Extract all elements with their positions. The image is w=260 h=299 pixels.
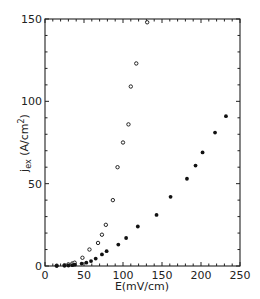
- y-axis-label-unit: (A/cm: [18, 124, 31, 160]
- x-axis-label: E(mV/cm): [115, 280, 169, 293]
- filled-circle-point: [94, 257, 98, 261]
- open-circle-point: [129, 85, 132, 88]
- filled-circle-point: [89, 259, 93, 263]
- open-circle-point: [111, 198, 114, 201]
- chart: 050100150200250 050100150 E(mV/cm) jex (…: [0, 0, 260, 299]
- x-tick-label: 0: [42, 269, 49, 282]
- open-circle-point: [135, 62, 138, 65]
- open-circle-point: [121, 141, 124, 144]
- filled-circle-point: [201, 150, 205, 154]
- filled-circle-point: [105, 249, 109, 253]
- open-circle-point: [127, 123, 130, 126]
- filled-circle-point: [185, 177, 189, 181]
- filled-circle-point: [136, 225, 140, 229]
- filled-circle-point: [124, 236, 128, 240]
- filled-circle-point: [155, 213, 159, 217]
- filled-circle-point: [213, 131, 217, 135]
- x-tick-label: 200: [191, 269, 212, 282]
- y-tick-label: 50: [28, 178, 42, 191]
- data-points: [55, 21, 228, 268]
- y-axis-label: jex (A/cm2): [17, 114, 33, 173]
- y-tick-label: 150: [21, 13, 42, 26]
- filled-circle-point: [116, 243, 120, 247]
- filled-circle-point: [67, 264, 71, 268]
- axis-ticks: [45, 19, 240, 266]
- y-tick-label: 100: [21, 95, 42, 108]
- plot-frame: [45, 19, 240, 266]
- open-circle-point: [81, 256, 84, 259]
- open-circle-point: [88, 248, 91, 251]
- series-open-circles: [55, 21, 149, 268]
- y-tick-label: 0: [35, 260, 42, 273]
- open-circle-point: [96, 241, 99, 244]
- open-circle-point: [116, 166, 119, 169]
- y-axis-label-close: ): [18, 114, 31, 118]
- filled-circle-point: [100, 253, 104, 257]
- plot-border: [45, 19, 240, 266]
- y-axis-label-sub: ex: [24, 159, 33, 169]
- open-circle-point: [100, 233, 103, 236]
- filled-circle-point: [194, 164, 198, 168]
- filled-circle-point: [55, 264, 59, 268]
- filled-circle-point: [84, 261, 88, 265]
- filled-circle-point: [63, 264, 67, 268]
- filled-circle-point: [224, 114, 228, 118]
- x-tick-label: 50: [77, 269, 91, 282]
- series-filled-circles: [55, 114, 228, 267]
- filled-circle-point: [169, 195, 173, 199]
- filled-circle-point: [73, 263, 77, 267]
- open-circle-point: [104, 223, 107, 226]
- x-tick-label: 250: [230, 269, 251, 282]
- filled-circle-point: [80, 262, 84, 266]
- open-circle-point: [145, 21, 148, 24]
